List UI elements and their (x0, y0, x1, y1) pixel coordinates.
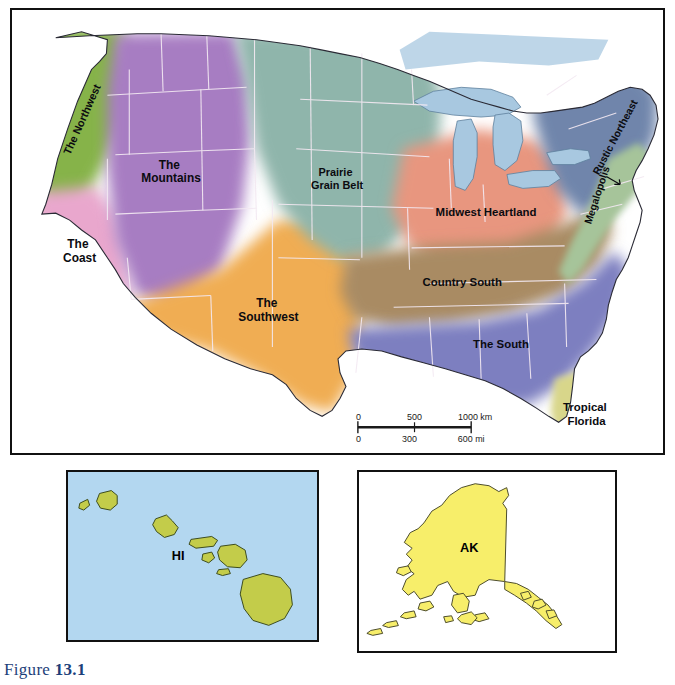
scale-km-0: 0 (356, 412, 361, 422)
scale-km-500: 500 (407, 412, 422, 422)
alaska-inset-frame: AK (357, 470, 617, 653)
scale-bar: 0 500 1000 km 0 300 600 mi (356, 412, 492, 444)
scale-mi-600: 600 mi (458, 434, 485, 444)
label-tropical-florida: Tropical Florida (563, 401, 610, 427)
scale-mi-300: 300 (402, 434, 417, 444)
label-the-south: The South (473, 338, 529, 350)
hawaii-inset-frame: HI (66, 470, 319, 642)
region-fill-layer (12, 10, 663, 453)
figure-caption-number: 13.1 (55, 660, 86, 679)
scale-mi-0: 0 (356, 434, 361, 444)
hawaii-label: HI (172, 548, 185, 563)
label-coast: The Coast (63, 237, 96, 265)
hawaii-inset-map: HI (68, 472, 317, 640)
alaska-inset-map: AK (359, 472, 615, 651)
figure-caption-prefix: Figure (4, 660, 50, 679)
label-country-south: Country South (423, 276, 502, 288)
label-midwest-heartland: Midwest Heartland (436, 206, 537, 218)
figure-caption: Figure 13.1 (4, 660, 86, 680)
main-map-frame: The Northwest The Mountains The Coast Th… (10, 8, 665, 455)
scale-km-1000: 1000 km (458, 412, 492, 422)
united-states-regions-map: The Northwest The Mountains The Coast Th… (12, 10, 663, 453)
alaska-label: AK (460, 540, 479, 555)
